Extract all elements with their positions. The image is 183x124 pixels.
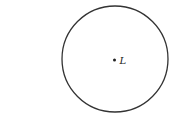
center-point: [113, 59, 116, 62]
circle-diagram: L: [0, 0, 183, 124]
center-label: L: [119, 55, 127, 66]
